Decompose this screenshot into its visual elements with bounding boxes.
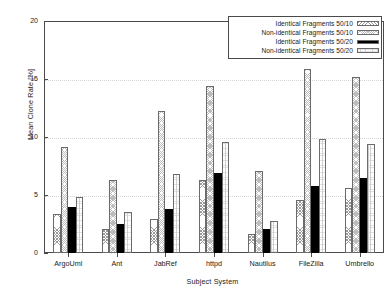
bar — [158, 111, 166, 253]
x-tick-mark — [263, 253, 264, 257]
bar — [61, 147, 69, 253]
bar — [248, 234, 256, 253]
bar — [311, 186, 319, 253]
y-axis-title: Mean Clone Rate [%] — [26, 25, 35, 185]
bar-chart: Mean Clone Rate [%] Subject System 05101… — [0, 0, 392, 294]
x-tick-mark — [360, 253, 361, 257]
x-tick-mark — [165, 253, 166, 257]
bar — [199, 180, 207, 253]
bar — [222, 142, 230, 253]
x-tick-label: Nautilus — [250, 259, 276, 268]
bar — [352, 77, 360, 253]
bar — [296, 200, 304, 253]
bar — [76, 197, 84, 253]
bar — [124, 212, 132, 253]
y-tick-label: 15 — [4, 75, 38, 82]
bar — [68, 207, 76, 253]
bar — [319, 139, 327, 253]
legend-swatch — [357, 40, 379, 44]
legend-label: Identical Fragments 50/10 — [276, 20, 354, 27]
legend-label: Non-identical Fragments 50/20 — [261, 47, 353, 54]
bar — [173, 174, 181, 253]
bar — [214, 173, 222, 253]
x-tick-mark — [311, 253, 312, 257]
y-tick-label: 0 — [4, 249, 38, 256]
y-tick-mark — [44, 253, 48, 254]
bar — [53, 214, 61, 253]
bar — [255, 171, 263, 253]
x-tick-mark — [117, 253, 118, 257]
bar — [109, 180, 117, 253]
bar — [150, 219, 158, 253]
legend-item: Identical Fragments 50/10 — [231, 19, 379, 28]
y-tick-label: 10 — [4, 133, 38, 140]
x-axis-title: Subject System — [40, 277, 385, 286]
bar — [263, 229, 271, 253]
x-tick-mark — [214, 253, 215, 257]
y-tick-label: 5 — [4, 191, 38, 198]
x-tick-label: httpd — [206, 259, 222, 268]
legend-item: Non-identical Fragments 50/20 — [231, 46, 379, 55]
bar — [360, 178, 368, 253]
x-tick-label: Umbrello — [345, 259, 374, 268]
bar — [165, 209, 173, 253]
bar — [206, 86, 214, 253]
x-tick-label: JabRef — [154, 259, 177, 268]
bar — [367, 144, 375, 253]
legend-swatch — [357, 21, 379, 26]
x-tick-label: FileZilla — [299, 259, 324, 268]
bar — [117, 224, 125, 253]
bar — [345, 188, 353, 253]
legend-swatch — [357, 30, 379, 35]
legend: Identical Fragments 50/10Non-identical F… — [228, 16, 382, 59]
y-tick-label: 20 — [4, 17, 38, 24]
legend-item: Identical Fragments 50/20 — [231, 37, 379, 46]
bar — [270, 221, 278, 253]
legend-item: Non-identical Fragments 50/10 — [231, 28, 379, 37]
legend-label: Non-identical Fragments 50/10 — [261, 29, 353, 36]
x-tick-mark — [68, 253, 69, 257]
bar — [102, 229, 110, 253]
legend-label: Identical Fragments 50/20 — [276, 38, 354, 45]
x-tick-label: Ant — [111, 259, 122, 268]
x-tick-label: ArgoUml — [54, 259, 82, 268]
bar — [304, 69, 312, 253]
legend-swatch — [357, 48, 379, 53]
